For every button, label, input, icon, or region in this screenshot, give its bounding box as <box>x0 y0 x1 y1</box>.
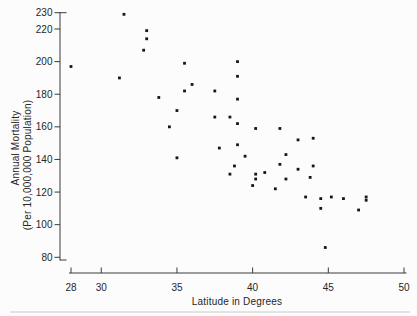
data-point <box>236 143 239 146</box>
plot-area: 23022020018016014012010080283035404550 L… <box>0 0 417 316</box>
x-tick-label: 30 <box>96 282 108 293</box>
y-tick-label: 160 <box>36 121 53 132</box>
data-point <box>263 171 266 174</box>
y-tick-label: 80 <box>41 252 53 263</box>
data-point <box>157 96 160 99</box>
data-point <box>213 90 216 93</box>
x-tick-label: 28 <box>65 282 77 293</box>
data-point <box>168 125 171 128</box>
data-point <box>324 246 327 249</box>
data-point <box>330 196 333 199</box>
data-point <box>183 90 186 93</box>
data-point <box>123 13 126 16</box>
y-tick-label: 140 <box>36 154 53 165</box>
y-tick-label: 180 <box>36 89 53 100</box>
x-tick-label: 40 <box>247 282 259 293</box>
scatter-plot-figure: 23022020018016014012010080283035404550 L… <box>0 0 417 316</box>
data-point <box>142 49 145 52</box>
data-points <box>70 13 368 249</box>
data-point <box>285 178 288 181</box>
y-axis-title-line1: Annual Mortality <box>10 111 21 186</box>
data-point <box>254 178 257 181</box>
data-point <box>229 116 232 119</box>
data-point <box>176 156 179 159</box>
data-point <box>312 137 315 140</box>
data-point <box>183 62 186 65</box>
y-tick-label: 200 <box>36 56 53 67</box>
data-point <box>274 187 277 190</box>
data-point <box>218 147 221 150</box>
data-point <box>319 207 322 210</box>
data-point <box>304 196 307 199</box>
y-tick-label: 120 <box>36 187 53 198</box>
data-point <box>213 116 216 119</box>
data-point <box>254 127 257 130</box>
data-point <box>285 153 288 156</box>
data-point <box>342 197 345 200</box>
x-tick-label: 45 <box>323 282 335 293</box>
data-point <box>191 83 194 86</box>
data-point <box>278 127 281 130</box>
data-point <box>236 75 239 78</box>
data-point <box>236 60 239 63</box>
data-point <box>357 209 360 212</box>
axes <box>55 12 407 273</box>
data-point <box>244 155 247 158</box>
data-point <box>145 29 148 32</box>
scan-artifact-line <box>10 311 410 313</box>
tick-labels: 23022020018016014012010080283035404550 <box>36 7 410 293</box>
data-point <box>297 168 300 171</box>
data-point <box>251 184 254 187</box>
data-point <box>365 199 368 202</box>
data-point <box>233 165 236 168</box>
data-point <box>236 122 239 125</box>
data-point <box>365 196 368 199</box>
data-point <box>236 98 239 101</box>
x-tick-label: 50 <box>398 282 410 293</box>
data-point <box>312 165 315 168</box>
data-point <box>118 77 121 80</box>
y-tick-label: 220 <box>36 24 53 35</box>
data-point <box>70 65 73 68</box>
data-point <box>229 173 232 176</box>
y-axis-title-line2: (Per 10,000,000 Population) <box>22 100 33 231</box>
data-point <box>309 176 312 179</box>
data-point <box>297 138 300 141</box>
data-point <box>176 109 179 112</box>
y-tick-label: 230 <box>36 7 53 18</box>
data-point <box>278 163 281 166</box>
data-point <box>254 173 257 176</box>
data-point <box>145 37 148 40</box>
x-tick-label: 35 <box>171 282 183 293</box>
x-axis-title: Latitude in Degrees <box>192 296 283 307</box>
y-tick-label: 100 <box>36 219 53 230</box>
data-point <box>319 197 322 200</box>
